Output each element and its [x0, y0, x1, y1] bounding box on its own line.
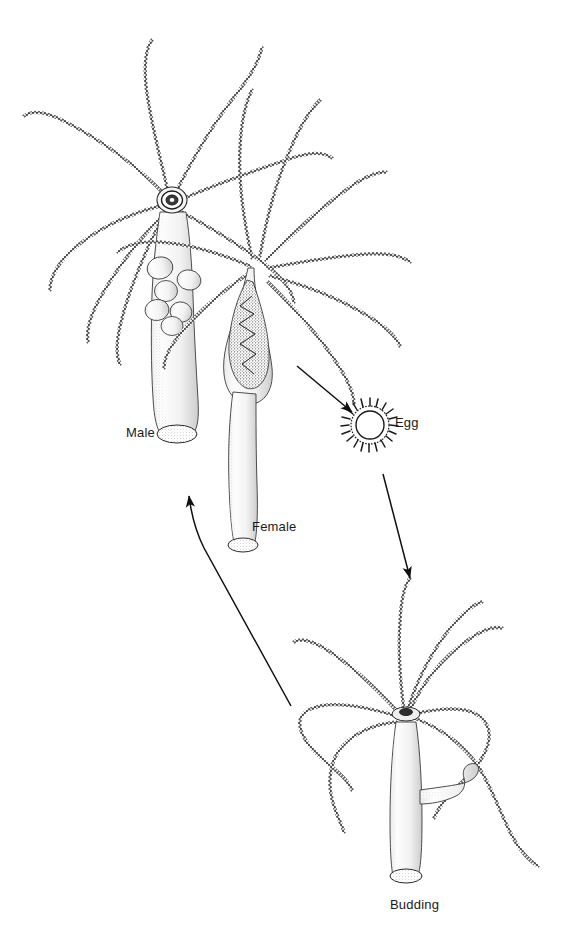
label-budding: Budding [390, 897, 439, 912]
budding-hypostome [392, 707, 420, 721]
female-basal-disc [228, 538, 258, 552]
male-basal-disc [157, 425, 197, 443]
figure-background [0, 0, 574, 933]
budding-column [390, 722, 422, 881]
male-hypostome [157, 187, 187, 213]
hydra-life-cycle-illustration: .tent { fill:none; stroke:url(#beadpat);… [0, 0, 574, 933]
figure-page: .tent { fill:none; stroke:url(#beadpat);… [0, 0, 574, 933]
label-female: Female [252, 519, 297, 534]
label-male: Male [126, 425, 155, 440]
label-egg: Egg [395, 415, 419, 430]
budding-basal-disc [390, 869, 422, 883]
